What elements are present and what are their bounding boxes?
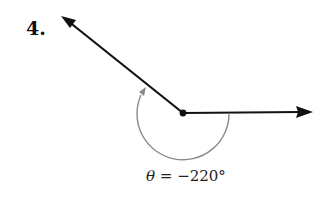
initial-side-ray bbox=[183, 106, 313, 118]
arrowhead-icon bbox=[296, 106, 313, 118]
angle-diagram bbox=[0, 0, 320, 224]
theta-symbol: θ bbox=[146, 167, 155, 185]
angle-arc bbox=[137, 87, 229, 160]
terminal-side-ray bbox=[61, 16, 183, 113]
angle-label: θ = −220° bbox=[146, 167, 256, 185]
angle-value: −220° bbox=[177, 167, 226, 185]
vertex-point bbox=[180, 110, 187, 117]
equals-sign: = bbox=[155, 167, 177, 185]
arc-arrowhead-icon bbox=[139, 87, 146, 96]
